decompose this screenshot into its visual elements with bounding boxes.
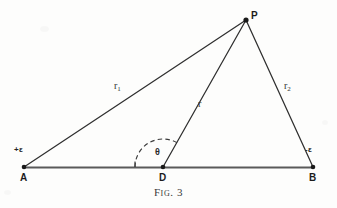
segment-r2-line [246, 20, 313, 167]
angle-label-theta: θ [155, 148, 160, 157]
vertex-label-a: A [20, 173, 27, 183]
vertex-dot-a [22, 165, 27, 170]
charge-label-positive: +ε [14, 146, 23, 154]
segment-label-r2: r2 [284, 81, 291, 91]
vertex-dot-d [161, 165, 166, 170]
vertex-dot-b [311, 165, 316, 170]
segment-label-r1-subscript: 1 [117, 85, 121, 93]
figure-caption-number: 3 [177, 186, 183, 198]
vertex-label-d: D [159, 173, 166, 183]
vertex-dot-p [243, 17, 248, 22]
geometry-diagram [0, 0, 337, 208]
vertex-label-b: B [309, 173, 316, 183]
figure-caption-prefix: Fig. [154, 186, 174, 198]
segment-label-r: r [198, 99, 201, 109]
figure-caption: Fig. 3 [0, 186, 337, 198]
figure-page: +ε -ε A D B P r1 r2 r θ Fig. 3 [0, 0, 337, 208]
segment-label-r2-subscript: 2 [287, 85, 291, 93]
segment-label-r-base: r [198, 98, 201, 109]
segment-r-line [163, 20, 246, 167]
charge-label-negative: -ε [305, 146, 312, 154]
segment-r1-line [24, 20, 246, 167]
vertex-label-p: P [251, 11, 258, 21]
segment-label-r1: r1 [114, 81, 121, 91]
